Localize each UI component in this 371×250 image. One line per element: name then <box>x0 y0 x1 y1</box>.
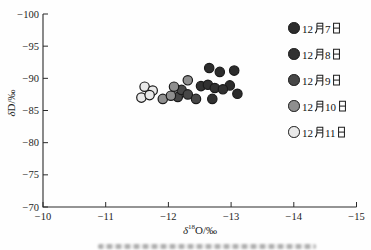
legend-item: 129 <box>288 67 348 93</box>
data-point <box>183 76 192 85</box>
cjk-day-glyph <box>331 74 342 86</box>
legend-day-number: 11 <box>325 126 336 138</box>
data-point <box>208 94 217 103</box>
y-tick-label: −85 <box>23 105 39 116</box>
legend-day-number: 7 <box>325 22 331 34</box>
legend-day-number: 10 <box>325 100 336 112</box>
legend-marker <box>288 74 300 86</box>
data-point <box>145 90 154 99</box>
legend-item: 1210 <box>288 93 348 119</box>
legend-month-number: 12 <box>302 22 313 34</box>
scatter-figure: −100−95−90−85−80−75−70−10−11−12−13−14−15… <box>0 0 371 250</box>
legend-item: 128 <box>288 41 348 67</box>
legend-label: 1210 <box>302 100 348 113</box>
legend-label: 127 <box>302 22 343 35</box>
data-point <box>218 85 227 94</box>
y-tick-label: −80 <box>23 137 39 148</box>
data-point <box>230 66 239 75</box>
legend: 12712812912101211 <box>288 15 348 145</box>
legend-marker <box>288 48 300 60</box>
x-tick-label: −15 <box>348 211 364 222</box>
data-point <box>169 82 178 91</box>
cjk-day-glyph <box>331 22 342 34</box>
legend-month-number: 12 <box>302 100 313 112</box>
x-tick-label: −11 <box>98 211 114 222</box>
cjk-day-glyph <box>331 48 342 60</box>
cjk-month-glyph <box>314 22 325 34</box>
x-axis-title-superscript: 18 <box>188 223 195 231</box>
legend-marker <box>288 22 300 34</box>
legend-label: 129 <box>302 74 343 87</box>
legend-label: 128 <box>302 48 343 61</box>
x-tick-label: −10 <box>35 211 51 222</box>
cjk-day-glyph <box>336 126 347 138</box>
legend-item: 127 <box>288 15 348 41</box>
x-tick-label: −13 <box>223 211 239 222</box>
y-axis-title: δD/‰ <box>3 73 19 133</box>
legend-month-number: 12 <box>302 74 313 86</box>
data-point <box>233 89 242 98</box>
legend-month-number: 12 <box>302 48 313 60</box>
x-axis-title: δ18O/‰ <box>43 223 357 236</box>
legend-label: 1211 <box>302 126 348 139</box>
cjk-month-glyph <box>314 48 325 60</box>
y-tick-label: −100 <box>17 9 39 20</box>
cjk-month-glyph <box>314 74 325 86</box>
y-tick-label: −75 <box>23 169 39 180</box>
cjk-month-glyph <box>314 126 325 138</box>
data-point <box>215 67 224 76</box>
data-point <box>166 91 175 100</box>
legend-day-number: 8 <box>325 48 331 60</box>
legend-item: 1211 <box>288 119 348 145</box>
cropped-caption-text <box>98 244 316 249</box>
y-axis-title-delta: δ <box>5 111 17 116</box>
data-point <box>191 94 200 103</box>
y-axis-title-rest: D/‰ <box>5 89 17 111</box>
data-point <box>205 63 214 72</box>
legend-marker <box>288 126 300 138</box>
x-tick-label: −14 <box>286 211 303 222</box>
cjk-day-glyph <box>337 100 348 112</box>
y-tick-label: −90 <box>23 73 39 84</box>
y-tick-label: −95 <box>23 41 39 52</box>
x-tick-label: −12 <box>160 211 176 222</box>
cjk-month-glyph <box>314 100 325 112</box>
legend-marker <box>288 100 300 112</box>
legend-day-number: 9 <box>325 74 331 86</box>
x-axis-title-rest: O/‰ <box>195 224 217 236</box>
legend-month-number: 12 <box>302 126 313 138</box>
